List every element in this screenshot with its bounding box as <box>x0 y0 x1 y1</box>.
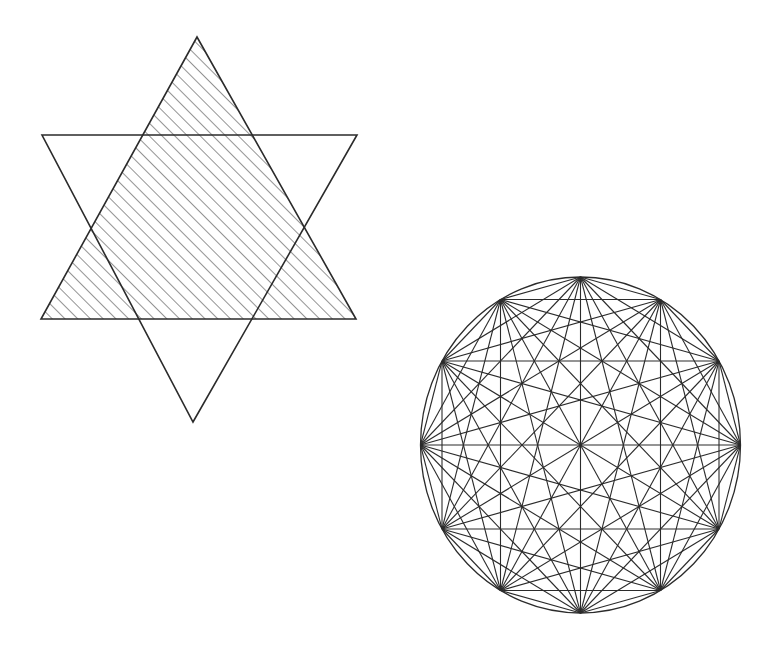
geometric-figure-canvas <box>0 0 783 661</box>
